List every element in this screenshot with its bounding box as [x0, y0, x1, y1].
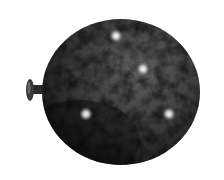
- balloon-scene: [0, 0, 224, 180]
- highlight-spot: [79, 107, 93, 121]
- highlight-spot: [109, 29, 123, 43]
- highlight-spot: [162, 107, 176, 121]
- balloon-body: [20, 18, 204, 180]
- balloon-nozzle: [26, 79, 44, 101]
- highlight-spot: [136, 62, 150, 76]
